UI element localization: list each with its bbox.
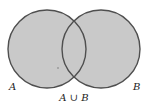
stray-dot xyxy=(57,67,59,69)
union-caption: A ∪ B xyxy=(58,92,88,103)
set-a-label: A xyxy=(8,81,16,92)
venn-diagram: A B A ∪ B xyxy=(0,0,149,107)
set-b-label: B xyxy=(132,81,140,92)
